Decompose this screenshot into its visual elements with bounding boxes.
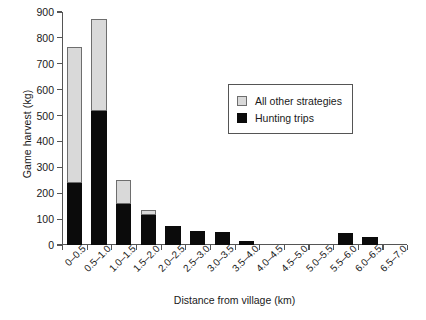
y-axis-tick-label: 600 xyxy=(36,84,54,96)
bar-segment-all-other-strategies xyxy=(67,47,82,183)
y-axis-tick xyxy=(57,219,62,220)
y-axis-tick-label: 700 xyxy=(36,58,54,70)
legend-item-all-other-strategies: All other strategies xyxy=(237,92,342,109)
y-axis-tick xyxy=(57,37,62,38)
bar-group xyxy=(215,232,230,245)
bar-segment-hunting-trips xyxy=(116,204,131,245)
bar-group xyxy=(165,226,180,245)
bar-group xyxy=(91,19,106,245)
y-axis-tick-label: 100 xyxy=(36,213,54,225)
y-axis-tick-label: 300 xyxy=(36,161,54,173)
y-axis-tick xyxy=(57,11,62,12)
bar-segment-hunting-trips xyxy=(190,231,205,245)
legend-label: All other strategies xyxy=(255,95,342,107)
y-axis-tick xyxy=(57,193,62,194)
bar-segment-hunting-trips xyxy=(67,183,82,245)
y-axis-tick-label: 200 xyxy=(36,187,54,199)
bar-group xyxy=(239,241,254,245)
x-axis-tick xyxy=(62,245,63,250)
y-axis-tick xyxy=(57,141,62,142)
bar-group xyxy=(67,47,82,245)
bar-segment-hunting-trips xyxy=(165,226,180,245)
bar-group xyxy=(190,231,205,245)
bar-group xyxy=(141,210,156,245)
y-axis-tick xyxy=(57,63,62,64)
bar-group xyxy=(362,237,377,245)
y-axis-tick-label: 900 xyxy=(36,6,54,18)
bar-segment-hunting-trips xyxy=(91,111,106,245)
y-axis-tick xyxy=(57,167,62,168)
game-harvest-bar-chart: Game harvest (kg) 0100200300400500600700… xyxy=(0,0,426,320)
legend-swatch-icon-gray xyxy=(237,96,247,106)
bar-segment-hunting-trips xyxy=(215,232,230,245)
chart-legend: All other strategies Hunting trips xyxy=(228,84,353,134)
x-axis-title: Distance from village (km) xyxy=(62,294,407,306)
y-axis-tick xyxy=(57,89,62,90)
x-axis-tick-label: 6.5–7.0 xyxy=(259,243,408,320)
y-axis-tick-label: 500 xyxy=(36,110,54,122)
bar-segment-all-other-strategies xyxy=(91,19,106,111)
y-axis-tick-label: 0 xyxy=(48,239,54,251)
y-axis-tick-label: 400 xyxy=(36,135,54,147)
bar-segment-hunting-trips xyxy=(338,233,353,245)
bar-group xyxy=(338,233,353,245)
bar-segment-hunting-trips xyxy=(141,215,156,245)
legend-swatch-icon-black xyxy=(237,113,247,123)
bar-group xyxy=(116,180,131,245)
legend-label: Hunting trips xyxy=(255,112,314,124)
bar-segment-hunting-trips xyxy=(362,237,377,245)
y-axis-tick-label: 800 xyxy=(36,32,54,44)
y-axis-line xyxy=(62,12,63,245)
y-axis-tick xyxy=(57,115,62,116)
bar-segment-hunting-trips xyxy=(239,241,254,245)
y-axis-title: Game harvest (kg) xyxy=(21,44,33,224)
legend-item-hunting-trips: Hunting trips xyxy=(237,109,342,126)
bar-segment-all-other-strategies xyxy=(141,210,156,215)
bar-segment-all-other-strategies xyxy=(116,180,131,203)
